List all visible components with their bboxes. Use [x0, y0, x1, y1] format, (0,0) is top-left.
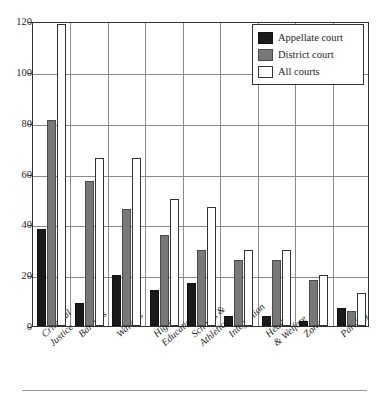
bar-appellate[interactable] — [187, 283, 196, 326]
bottom-divider-rule — [22, 390, 367, 391]
legend-item-label: District court — [278, 49, 334, 61]
bar-district[interactable] — [85, 181, 94, 326]
bar-appellate[interactable] — [150, 290, 159, 326]
bar-appellate[interactable] — [37, 229, 46, 326]
legend-item[interactable]: All courts — [258, 63, 358, 80]
bar-chart-figure: 020406080100120 CriminalJusticeBarriersW… — [0, 0, 383, 401]
bar-group — [108, 23, 145, 326]
legend-item[interactable]: District court — [258, 46, 358, 63]
legend-item[interactable]: Appellate court — [258, 29, 358, 46]
bar-group — [70, 23, 107, 326]
bar-district[interactable] — [309, 280, 318, 326]
bar-appellate[interactable] — [224, 316, 233, 326]
y-axis: 020406080100120 — [0, 0, 32, 401]
bar-all[interactable] — [95, 158, 104, 326]
bar-group — [183, 23, 220, 326]
legend-swatch-icon — [258, 49, 273, 61]
bar-all[interactable] — [132, 158, 141, 326]
bar-appellate[interactable] — [337, 308, 346, 326]
bar-district[interactable] — [160, 235, 169, 327]
bar-district[interactable] — [347, 311, 356, 326]
legend-item-label: Appellate court — [278, 32, 343, 44]
bar-all[interactable] — [57, 24, 66, 326]
bar-all[interactable] — [319, 275, 328, 326]
legend-swatch-icon — [258, 32, 273, 44]
legend-item-label: All courts — [278, 66, 320, 78]
bar-appellate[interactable] — [112, 275, 121, 326]
bar-district[interactable] — [47, 120, 56, 326]
bar-all[interactable] — [207, 207, 216, 326]
bar-district[interactable] — [234, 260, 243, 326]
bar-district[interactable] — [122, 209, 131, 326]
bar-all[interactable] — [357, 293, 366, 326]
bar-all[interactable] — [244, 250, 253, 326]
bar-group — [145, 23, 182, 326]
bar-all[interactable] — [170, 199, 179, 326]
bar-all[interactable] — [282, 250, 291, 326]
bar-district[interactable] — [272, 260, 281, 326]
bar-appellate[interactable] — [262, 316, 271, 326]
bar-appellate[interactable] — [75, 303, 84, 326]
bar-district[interactable] — [197, 250, 206, 326]
legend-swatch-icon — [258, 66, 273, 78]
bar-group — [33, 23, 70, 326]
chart-legend: Appellate courtDistrict courtAll courts — [252, 24, 364, 85]
bar-appellate[interactable] — [299, 321, 308, 326]
x-axis-labels: CriminalJusticeBarriersWaiversHigherEduc… — [32, 327, 369, 393]
